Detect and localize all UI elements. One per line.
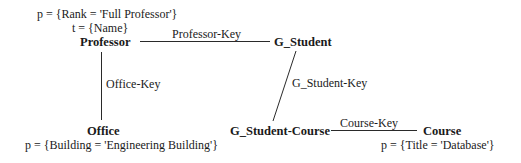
edge-label-course-key: Course-Key	[340, 116, 398, 130]
edge-label-g-student-key: G_Student-Key	[292, 76, 367, 90]
node-g-student-course: G_Student-Course	[230, 124, 330, 138]
office-predicate: p = {Building = 'Engineering Building'}	[25, 138, 218, 152]
professor-target: t = {Name}	[72, 21, 128, 35]
edge-label-office-key: Office-Key	[106, 77, 160, 91]
edge-label-professor-key: Professor-Key	[172, 27, 241, 41]
node-office: Office	[87, 124, 120, 138]
professor-predicate: p = {Rank = 'Full Professor'}	[37, 7, 177, 21]
node-g-student: G_Student	[274, 35, 332, 49]
node-professor: Professor	[80, 35, 130, 49]
node-course: Course	[423, 124, 461, 138]
course-predicate: p = {Title = 'Database'}	[381, 138, 495, 152]
